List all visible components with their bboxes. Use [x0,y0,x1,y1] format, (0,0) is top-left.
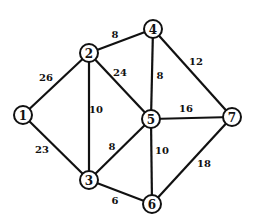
node-label: 7 [228,111,236,125]
edge-weights-layer: 26238241081216810618 [35,29,211,206]
edge-weight-1-2: 26 [39,72,53,83]
nodes-layer: 1234567 [14,20,241,213]
edge-weight-1-3: 23 [35,144,49,155]
edge-3-6 [89,180,152,204]
weighted-graph-diagram: 26238241081216810618 1234567 [0,0,255,219]
edge-weight-5-7: 16 [179,103,193,114]
node-label: 4 [149,23,157,37]
edge-weight-2-5: 24 [113,67,127,78]
edge-weight-5-6: 10 [155,145,169,156]
edge-5-6 [151,119,152,204]
edge-5-7 [151,117,232,119]
edge-1-3 [23,115,89,180]
edge-weight-4-7: 12 [189,56,203,67]
node-1: 1 [14,106,32,124]
edge-weight-2-3: 10 [89,104,103,115]
edge-3-5 [89,119,151,180]
node-6: 6 [143,195,161,213]
edge-6-7 [152,117,232,204]
node-5: 5 [142,110,160,128]
node-label: 6 [148,198,156,212]
edge-weight-3-5: 8 [109,141,116,152]
node-label: 5 [147,113,155,127]
edge-2-4 [89,29,153,53]
node-3: 3 [80,171,98,189]
node-label: 2 [85,47,93,61]
edge-4-5 [151,29,153,119]
edge-1-2 [23,53,89,115]
edge-weight-6-7: 18 [197,158,211,169]
node-label: 3 [85,174,93,188]
node-4: 4 [144,20,162,38]
edge-weight-4-5: 8 [157,70,164,81]
edge-weight-3-6: 6 [112,195,119,206]
node-7: 7 [223,108,241,126]
node-2: 2 [80,44,98,62]
node-label: 1 [19,109,27,123]
edge-weight-2-4: 8 [112,29,119,40]
